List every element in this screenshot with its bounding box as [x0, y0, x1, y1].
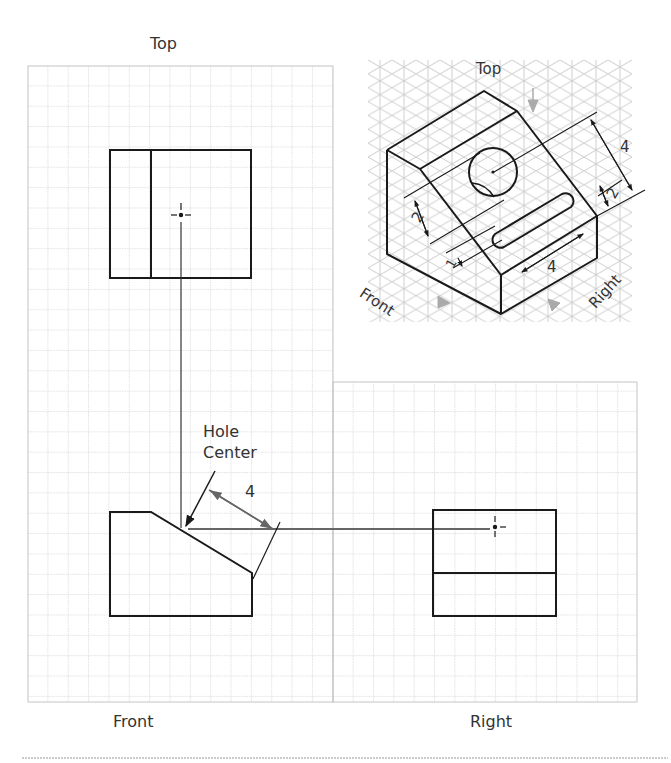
front-view-label: Front	[113, 712, 153, 731]
hole-label-line2: Center	[203, 443, 257, 462]
hole-label-line1: Hole	[203, 422, 239, 441]
iso-dim-4-slot: 4	[547, 258, 557, 276]
right-view-label: Right	[470, 712, 512, 731]
top-view-label: Top	[150, 34, 177, 53]
iso-top-label: Top	[476, 60, 501, 78]
iso-dim-4-vertical: 4	[620, 138, 630, 156]
drawing-canvas	[0, 0, 671, 763]
front-dimension-label: 4	[245, 482, 255, 501]
